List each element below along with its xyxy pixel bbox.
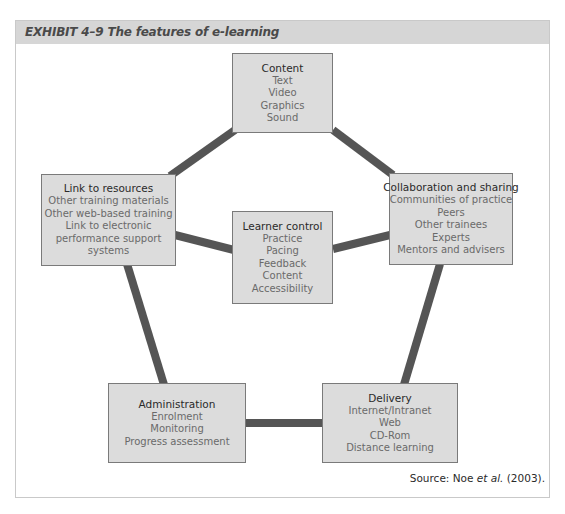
source-prefix: Source: Noe: [410, 472, 477, 484]
node-item: Monitoring: [150, 423, 203, 436]
connector-link-learner: [175, 235, 234, 250]
node-item: systems: [88, 245, 129, 258]
node-content: Content Text Video Graphics Sound: [232, 53, 333, 133]
node-title: Collaboration and sharing: [383, 181, 519, 194]
node-item: Other web-based training: [45, 208, 173, 221]
node-item: Mentors and advisers: [397, 244, 505, 257]
node-item: Graphics: [260, 100, 304, 113]
connector-content-link: [170, 130, 235, 176]
source-citation: Source: Noe et al. (2003).: [410, 472, 545, 484]
node-item: Text: [272, 75, 292, 88]
node-item: CD-Rom: [370, 430, 411, 443]
node-item: Distance learning: [346, 442, 434, 455]
node-item: Web: [379, 417, 401, 430]
node-item: performance support: [56, 233, 162, 246]
node-link-to-resources: Link to resources Other training materia…: [41, 174, 176, 266]
node-title: Delivery: [368, 392, 412, 405]
node-title: Administration: [139, 398, 216, 411]
node-learner-control: Learner control Practice Pacing Feedback…: [232, 211, 333, 304]
node-item: Content: [263, 270, 303, 283]
node-title: Link to resources: [64, 182, 154, 195]
node-item: Link to electronic: [65, 220, 151, 233]
node-item: Other training materials: [48, 195, 168, 208]
node-item: Experts: [432, 232, 470, 245]
source-italic: et al.: [477, 472, 504, 484]
node-item: Video: [268, 87, 296, 100]
connector-content-collaboration: [333, 130, 393, 175]
node-item: Progress assessment: [124, 436, 229, 449]
node-item: Internet/Intranet: [349, 405, 432, 418]
connector-link-administration: [127, 264, 165, 388]
node-item: Enrolment: [151, 411, 203, 424]
node-item: Sound: [267, 112, 299, 125]
node-item: Accessibility: [252, 283, 314, 296]
node-item: Practice: [263, 233, 303, 246]
node-item: Other trainees: [415, 219, 487, 232]
node-title: Content: [262, 62, 304, 75]
node-item: Pacing: [266, 245, 299, 258]
node-item: Peers: [437, 207, 464, 220]
source-suffix: (2003).: [503, 472, 545, 484]
node-item: Communities of practice: [390, 194, 513, 207]
connector-collaboration-learner: [333, 235, 390, 249]
node-item: Feedback: [259, 258, 307, 271]
connector-collaboration-delivery: [403, 264, 440, 388]
node-delivery: Delivery Internet/Intranet Web CD-Rom Di…: [322, 383, 458, 463]
node-collaboration-and-sharing: Collaboration and sharing Communities of…: [389, 173, 513, 265]
node-administration: Administration Enrolment Monitoring Prog…: [108, 383, 246, 463]
node-title: Learner control: [243, 220, 323, 233]
